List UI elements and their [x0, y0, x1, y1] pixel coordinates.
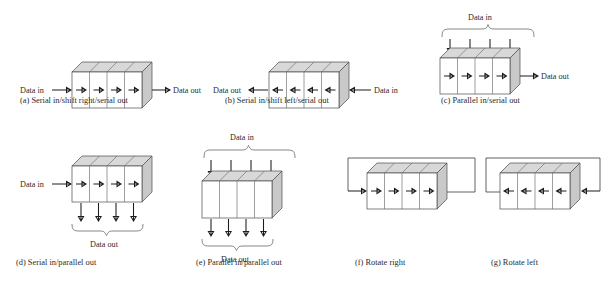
panel-g: [478, 148, 613, 248]
panel-f: [340, 148, 490, 248]
feedback-arrow: [348, 188, 366, 193]
register-box-e: [202, 171, 282, 218]
caption-text: (g) Rotate left: [491, 258, 539, 267]
input-arrow-d: [52, 181, 71, 186]
caption-c: (c) Parallel in/serial out: [441, 92, 613, 108]
caption-g: (g) Rotate left: [491, 254, 613, 270]
caption-a: (a) Serial in/shift right/serial out: [20, 92, 220, 108]
label-data-in-top: Data in: [230, 133, 254, 142]
caption-text: (f) Rotate right: [355, 258, 406, 267]
shift-register-figure: Data in Data out (a) Serial in/shift rig…: [0, 0, 613, 284]
feedback-arrow: [582, 188, 600, 193]
panel-d: Data in Data out: [0, 148, 205, 256]
caption-d: (d) Serial in/parallel out: [16, 254, 206, 270]
caption-text: (d) Serial in/parallel out: [16, 258, 97, 267]
brace-bottom: [72, 224, 143, 236]
caption-text: (e) Parallel in/parallel out: [196, 258, 282, 267]
caption-text: (c) Parallel in/serial out: [441, 96, 521, 105]
brace-bottom: [202, 239, 273, 251]
caption-text: (b) Serial in/shift left/serial out: [225, 96, 329, 105]
parallel-out-arrows-e: [208, 219, 266, 236]
caption-text: (a) Serial in/shift right/serial out: [20, 96, 129, 105]
output-arrow-c: [520, 73, 538, 78]
brace-top: [442, 25, 534, 38]
register-box-f: [367, 163, 447, 209]
register-box-g: [500, 163, 580, 209]
caption-b: (b) Serial in/shift left/serial out: [225, 92, 425, 108]
label-data-out: Data out: [541, 72, 570, 81]
label-data-out-bottom: Data out: [90, 240, 119, 249]
parallel-out-arrows-d: [78, 203, 136, 221]
label-data-in: Data in: [20, 180, 44, 189]
caption-f: (f) Rotate right: [355, 254, 495, 270]
label-data-in-top: Data in: [468, 13, 492, 22]
brace-top: [204, 146, 295, 159]
register-box-c: [440, 48, 520, 94]
register-box-d: [72, 156, 152, 202]
